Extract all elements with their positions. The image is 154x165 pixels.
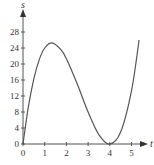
x-tick-label: 4	[108, 148, 113, 158]
x-tick-label: 0	[21, 148, 26, 158]
y-tick-label: 28	[10, 27, 20, 37]
y-tick-label: 24	[10, 43, 20, 53]
y-tick-label: 12	[10, 91, 19, 101]
y-axis-arrow-icon	[20, 9, 26, 17]
y-tick-label: 4	[15, 123, 20, 133]
s-of-t-curve	[23, 40, 139, 144]
x-tick-label: 5	[129, 148, 134, 158]
x-tick-label: 1	[42, 148, 47, 158]
y-tick-label: 8	[15, 107, 20, 117]
y-tick-label: 0	[15, 139, 20, 149]
x-axis-label: t	[150, 138, 153, 149]
x-tick-label: 3	[86, 148, 91, 158]
y-tick-label: 16	[10, 75, 20, 85]
y-axis-label: s	[21, 0, 25, 10]
x-tick-label: 2	[64, 148, 69, 158]
y-tick-label: 20	[10, 59, 20, 69]
position-time-graph: 0481216202428 012345 s t	[0, 0, 154, 165]
x-axis-arrow-icon	[140, 141, 148, 147]
